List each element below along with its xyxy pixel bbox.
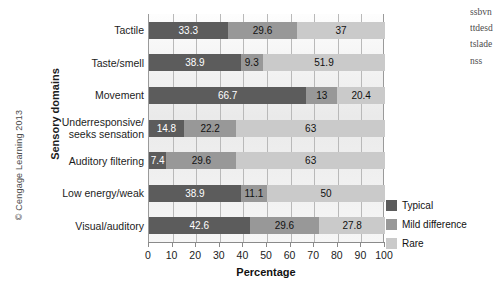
- x-axis-tick: [219, 242, 220, 247]
- bar-value-label: 13: [316, 90, 327, 101]
- x-axis-tick: [337, 242, 338, 247]
- bar-value-label: 51.9: [314, 57, 333, 68]
- x-axis-tick-label: 20: [182, 249, 208, 261]
- bar-segment[interactable]: 29.6: [228, 22, 298, 39]
- bar-value-label: 33.3: [179, 25, 198, 36]
- x-axis-tick-label: 90: [347, 249, 373, 261]
- x-axis-tick-label: 40: [229, 249, 255, 261]
- legend-label: Typical: [402, 200, 433, 211]
- copyright-notice: © Cengage Learning 2013: [14, 90, 24, 240]
- x-axis-title: Percentage: [148, 266, 384, 278]
- x-axis-tick: [360, 242, 361, 247]
- x-axis-tick-label: 10: [159, 249, 185, 261]
- x-axis-tick-label: 0: [135, 249, 161, 261]
- x-axis-tick: [313, 242, 314, 247]
- legend-item[interactable]: Typical: [386, 197, 467, 214]
- bar-value-label: 66.7: [218, 90, 237, 101]
- legend-item[interactable]: Mild difference: [386, 216, 467, 233]
- x-axis-tick: [148, 242, 149, 247]
- bar-segment[interactable]: 50: [267, 185, 385, 202]
- bar-value-label: 14.8: [157, 123, 176, 134]
- bar-value-label: 7.4: [151, 155, 165, 166]
- bar-segment[interactable]: 11.1: [241, 185, 267, 202]
- x-axis-tick-label: 80: [324, 249, 350, 261]
- bar-segment[interactable]: 38.9: [149, 54, 241, 71]
- bar-segment[interactable]: 37: [297, 22, 384, 39]
- bar-segment[interactable]: 51.9: [263, 54, 385, 71]
- bar-row: 38.911.150: [149, 185, 383, 202]
- bar-value-label: 27.8: [342, 220, 361, 231]
- x-axis-tick-label: 60: [277, 249, 303, 261]
- x-axis-tick: [195, 242, 196, 247]
- bar-row: 66.71320.4: [149, 87, 383, 104]
- bar-value-label: 63: [305, 155, 316, 166]
- bar-value-label: 29.6: [253, 25, 272, 36]
- bar-value-label: 20.4: [351, 90, 370, 101]
- chart-legend: TypicalMild differenceRare: [386, 197, 467, 254]
- bar-value-label: 9.3: [245, 57, 259, 68]
- bar-row: 14.822.263: [149, 120, 383, 137]
- bar-row: 33.329.637: [149, 22, 383, 39]
- category-label: Tactile: [26, 24, 144, 36]
- x-axis-tick: [242, 242, 243, 247]
- legend-item[interactable]: Rare: [386, 235, 467, 252]
- x-axis-tick-label: 70: [300, 249, 326, 261]
- bar-segment[interactable]: 7.4: [149, 152, 166, 169]
- bar-segment[interactable]: 22.2: [184, 120, 236, 137]
- bar-segment[interactable]: 9.3: [241, 54, 263, 71]
- x-axis-tick-label: 30: [206, 249, 232, 261]
- bar-value-label: 38.9: [185, 57, 204, 68]
- legend-swatch: [386, 219, 397, 230]
- x-axis-tick-label: 50: [253, 249, 279, 261]
- stacked-bar-chart-figure: © Cengage Learning 2013 Sensory domains …: [0, 0, 494, 306]
- bar-value-label: 29.6: [275, 220, 294, 231]
- category-label-column: TactileTaste/smellMovementUnderresponsiv…: [26, 14, 144, 242]
- bar-segment[interactable]: 63: [236, 120, 385, 137]
- category-label: Visual/auditory: [26, 220, 144, 232]
- legend-label: Rare: [402, 238, 424, 249]
- bar-segment[interactable]: 29.6: [250, 217, 320, 234]
- bar-row: 38.99.351.9: [149, 54, 383, 71]
- bar-value-label: 22.2: [200, 123, 219, 134]
- x-axis-tick: [172, 242, 173, 247]
- x-axis-tick: [384, 242, 385, 247]
- plot-area: 33.329.63738.99.351.966.71320.414.822.26…: [148, 14, 384, 242]
- x-axis-tick-label: 100: [371, 249, 397, 261]
- bar-value-label: 29.6: [192, 155, 211, 166]
- bar-value-label: 63: [305, 123, 316, 134]
- bar-segment[interactable]: 20.4: [337, 87, 385, 104]
- bar-value-label: 50: [320, 188, 331, 199]
- category-label: Movement: [26, 89, 144, 101]
- category-label: Auditory filtering: [26, 155, 144, 167]
- bar-segment[interactable]: 14.8: [149, 120, 184, 137]
- bar-value-label: 37: [336, 25, 347, 36]
- bar-segment[interactable]: 33.3: [149, 22, 228, 39]
- bar-segment[interactable]: 29.6: [166, 152, 236, 169]
- category-label: Taste/smell: [26, 57, 144, 69]
- legend-swatch: [386, 200, 397, 211]
- bar-row: 42.629.627.8: [149, 217, 383, 234]
- bar-segment[interactable]: 42.6: [149, 217, 250, 234]
- category-label: Underresponsive/ seeks sensation: [26, 116, 144, 140]
- bar-value-label: 42.6: [190, 220, 209, 231]
- bar-segment[interactable]: 66.7: [149, 87, 306, 104]
- legend-swatch: [386, 238, 397, 249]
- bar-segment[interactable]: 13: [306, 87, 337, 104]
- bar-value-label: 38.9: [185, 188, 204, 199]
- bar-segment[interactable]: 63: [236, 152, 385, 169]
- bar-segment[interactable]: 27.8: [319, 217, 385, 234]
- category-label: Low energy/weak: [26, 187, 144, 199]
- adjacent-column-text-sliver: ssbvnttdesdtsladenss: [470, 4, 494, 302]
- x-axis-tick: [266, 242, 267, 247]
- bar-value-label: 11.1: [245, 188, 264, 199]
- bar-row: 7.429.663: [149, 152, 383, 169]
- x-axis-tick: [290, 242, 291, 247]
- bar-segment[interactable]: 38.9: [149, 185, 241, 202]
- legend-label: Mild difference: [402, 219, 467, 230]
